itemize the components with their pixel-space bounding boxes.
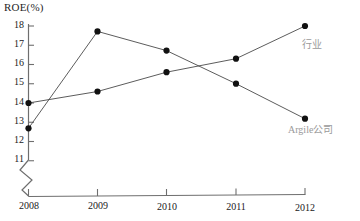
- y-tick-marks: [29, 26, 35, 161]
- x-tick-label-2012: 2012: [284, 202, 326, 213]
- x-tick-label-2011: 2011: [215, 201, 257, 212]
- series-line-industry: [29, 26, 306, 103]
- axis-break-zigzag: [20, 160, 32, 196]
- x-tick-label-2008: 2008: [8, 200, 50, 211]
- y-tick-label-17: 17: [2, 38, 24, 49]
- y-axis-title: ROE(%): [4, 1, 44, 13]
- y-tick-label-15: 15: [2, 76, 24, 87]
- y-tick-label-18: 18: [2, 19, 24, 30]
- series-markers-industry: [25, 23, 308, 106]
- y-tick-label-16: 16: [2, 57, 24, 68]
- series-markers-argile: [25, 28, 308, 131]
- x-tick-label-2010: 2010: [146, 201, 188, 212]
- chart-plot-area: [0, 0, 360, 221]
- series-label-argile: Argile公司: [288, 121, 333, 136]
- roe-line-chart: ROE(%) 18 17 16 15 14 13 12 11 2008 2009…: [0, 0, 360, 221]
- y-tick-label-14: 14: [2, 96, 24, 107]
- series-label-industry: 行业: [302, 36, 322, 51]
- x-tick-label-2009: 2009: [77, 200, 119, 211]
- y-tick-label-12: 12: [2, 134, 24, 145]
- y-tick-label-11: 11: [2, 153, 24, 164]
- y-tick-label-13: 13: [2, 115, 24, 126]
